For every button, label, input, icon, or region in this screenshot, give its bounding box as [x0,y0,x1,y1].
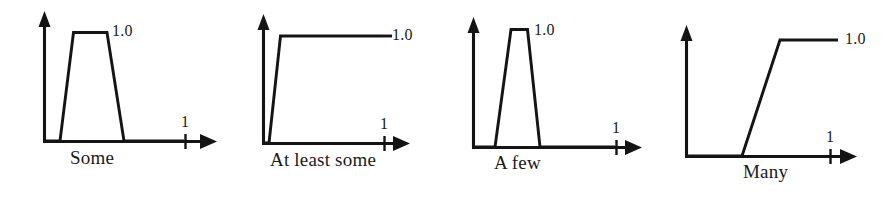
caption-at-least-some: At least some [270,150,376,169]
y-axis-arrow-some [39,11,51,27]
caption-some: Some [70,148,114,167]
x-axis-arrow-a-few [625,140,642,155]
membership-curve-at-least-some [263,36,383,143]
peak-value-label-a-few: 1.0 [534,22,555,38]
x-tick-label-a-few: 1 [612,120,620,136]
x-axis-arrow-some [200,134,217,149]
membership-curve-some [44,33,184,142]
x-tick-label-many: 1 [826,129,834,145]
y-axis-arrow-at-least-some [258,14,270,30]
caption-a-few: A few [494,153,541,172]
caption-many: Many [743,162,788,181]
x-tick-label-some: 1 [181,114,189,130]
peak-value-label-at-least-some: 1.0 [392,27,413,43]
x-tick-label-at-least-some: 1 [380,116,388,132]
y-axis-arrow-many [681,25,693,41]
x-axis-arrow-many [840,149,857,164]
figure-root: 1.0 1 Some 1.0 1 At least some 1.0 1 A f… [0,0,896,198]
x-axis-arrow-at-least-some [393,136,410,151]
membership-curve-a-few [473,30,615,148]
membership-curve-many [686,40,838,156]
peak-value-label-many: 1.0 [845,31,866,47]
peak-value-label-some: 1.0 [112,23,133,39]
y-axis-arrow-a-few [468,17,480,33]
